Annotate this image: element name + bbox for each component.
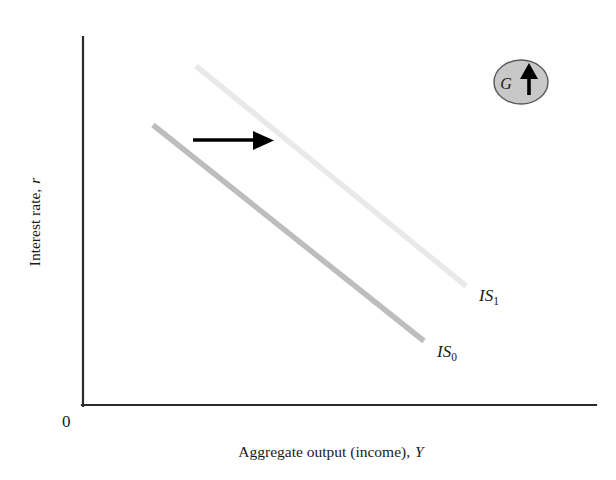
is1-label-subscript: 1 <box>493 295 499 307</box>
is1-label-text: IS <box>478 286 494 305</box>
is0-label-subscript: 0 <box>451 351 457 363</box>
x-axis-label-text: Aggregate output (income), <box>238 443 410 461</box>
is1-curve-label: IS1 <box>478 286 499 307</box>
y-axis-label: Interest rate,r <box>26 177 43 266</box>
x-axis-label: Aggregate output (income),Y <box>238 443 425 461</box>
government-spending-increase-badge: G <box>494 60 548 104</box>
figure-canvas: G IS1 IS0 0 Aggregate output (income),Y … <box>0 0 616 480</box>
y-axis-label-symbol: r <box>26 177 43 184</box>
is0-curve <box>153 125 424 341</box>
y-axis-label-text: Interest rate, <box>26 189 43 266</box>
is-curve-figure: G IS1 IS0 0 Aggregate output (income),Y … <box>0 0 616 480</box>
is0-curve-label: IS0 <box>436 342 457 363</box>
origin-label: 0 <box>62 412 71 431</box>
badge-letter: G <box>500 75 512 92</box>
rightward-shift-arrow <box>193 131 274 150</box>
is1-curve <box>196 66 466 286</box>
x-axis-label-symbol: Y <box>415 443 425 460</box>
is0-label-text: IS <box>436 342 452 361</box>
